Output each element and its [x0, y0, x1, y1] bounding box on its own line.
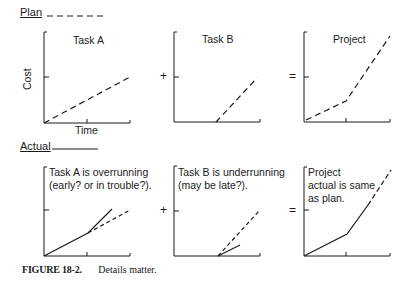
y-axis-label-cost: Cost — [21, 68, 33, 90]
project-plan-line — [306, 36, 390, 120]
note-task-a: Task A is overrunning (early? or in trou… — [49, 166, 152, 192]
task-b-plan-line — [216, 78, 257, 122]
axes-task-b-plan — [174, 32, 260, 122]
equals-operator-bottom: = — [289, 203, 296, 217]
panel-title-project: Project — [333, 33, 366, 45]
axes-project-plan — [304, 32, 390, 122]
figure-number: FIGURE 18-2. — [22, 264, 82, 275]
task-b-plan-ref-line — [218, 211, 259, 256]
figure-caption-text: Details matter. — [98, 264, 156, 275]
figure-caption: FIGURE 18-2. Details matter. — [22, 264, 157, 275]
panel-title-task-a: Task A — [73, 34, 104, 46]
project-actual-line — [304, 205, 368, 256]
task-a-actual-line — [44, 209, 112, 256]
task-b-actual-line — [218, 245, 240, 256]
task-a-plan-ref-line — [88, 210, 130, 233]
plus-operator-top: + — [160, 69, 167, 83]
note-task-b: Task B is underrunning (may be late?). — [178, 166, 285, 192]
equals-operator-top: = — [289, 69, 296, 83]
panel-title-task-b: Task B — [202, 33, 234, 45]
note-project: Project actual is same as plan. — [308, 166, 375, 205]
plus-operator-bottom: + — [160, 203, 167, 217]
x-axis-label-time: Time — [75, 124, 98, 136]
task-a-plan-line — [44, 77, 130, 123]
